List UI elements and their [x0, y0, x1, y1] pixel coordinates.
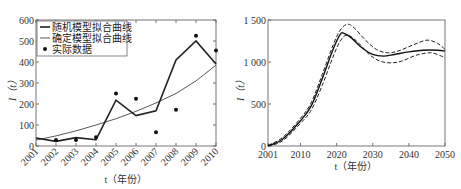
- left-x-tick: 2010: [198, 146, 220, 168]
- left-y-tick: 100: [19, 120, 34, 131]
- left-y-tick: 600: [19, 15, 34, 26]
- legend-deterministic: 确定模型拟合曲线: [52, 32, 132, 44]
- left-y-label: I（t）: [7, 75, 18, 102]
- left-chart: 0100200300400500600 20012002200320042005…: [7, 15, 220, 186]
- right-x-axis: 200120102020203020402050: [258, 143, 455, 160]
- right-x-tick: 2050: [435, 149, 455, 160]
- lower-bound-line: [268, 35, 445, 146]
- right-y-axis: 05001 0001 500: [244, 15, 272, 152]
- left-y-tick: 400: [19, 57, 34, 68]
- right-x-tick: 2040: [399, 149, 419, 160]
- deterministic-fit-line: [36, 65, 216, 140]
- left-x-tick: 2008: [158, 146, 180, 168]
- legend-actual: 实际数据: [52, 43, 92, 55]
- left-x-tick: 2005: [98, 146, 120, 168]
- right-x-tick: 2020: [327, 149, 347, 160]
- right-y-tick: 1 500: [244, 15, 267, 26]
- right-x-label: t（年份）: [335, 160, 378, 172]
- legend: 随机模型拟合曲线 确定模型拟合曲线 实际数据: [37, 21, 132, 57]
- left-y-tick: 300: [19, 78, 34, 89]
- left-y-tick: 200: [19, 99, 34, 110]
- left-x-tick: 2006: [118, 146, 140, 168]
- right-x-tick: 2010: [291, 149, 311, 160]
- left-x-tick: 2004: [78, 146, 100, 168]
- left-x-label: t（年份）: [105, 173, 148, 185]
- left-x-tick: 2007: [138, 146, 160, 168]
- right-chart: 05001 0001 500 200120102020203020402050 …: [235, 15, 455, 173]
- right-y-tick: 1 000: [244, 57, 267, 68]
- right-x-tick: 2001: [258, 149, 278, 160]
- left-x-tick: 2001: [18, 146, 40, 168]
- left-y-tick: 500: [19, 36, 34, 47]
- right-y-tick: 500: [251, 99, 266, 110]
- left-x-tick: 2003: [58, 146, 80, 168]
- legend-stochastic: 随机模型拟合曲线: [52, 21, 132, 33]
- right-y-label: I（t）: [235, 75, 246, 102]
- figure: 0100200300400500600 20012002200320042005…: [0, 0, 461, 189]
- right-x-tick: 2030: [363, 149, 383, 160]
- left-x-tick: 2009: [178, 146, 200, 168]
- left-x-tick: 2002: [38, 146, 60, 168]
